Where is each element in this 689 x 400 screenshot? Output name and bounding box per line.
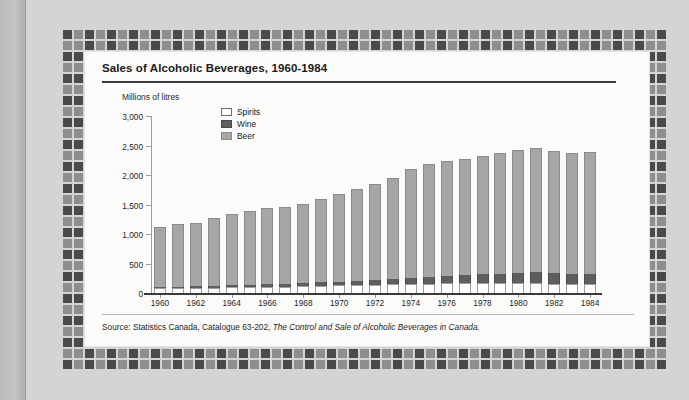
bar-segment-beer [512, 150, 524, 273]
x-tick-label: 1960 [143, 298, 177, 308]
title-underline [102, 81, 616, 83]
bar-1968 [297, 204, 309, 293]
bar-1977 [459, 159, 471, 293]
bar-1978 [477, 156, 489, 293]
bar-segment-spirits [512, 283, 524, 293]
bar-segment-wine [441, 276, 453, 284]
x-tick-label: 1970 [322, 298, 356, 308]
bar-segment-wine [512, 273, 524, 283]
x-tick-label: 1980 [501, 298, 535, 308]
bar-segment-spirits [584, 284, 596, 293]
y-tick-label: 3,000 [101, 112, 143, 122]
bar-segment-beer [297, 204, 309, 283]
y-tick-label: 2,000 [101, 171, 143, 181]
bar-segment-beer [477, 156, 489, 275]
y-axis-title: Millions of litres [122, 92, 179, 102]
page-title: Sales of Alcoholic Beverages, 1960-1984 [102, 62, 327, 74]
bar-1960 [154, 227, 166, 293]
bar-1962 [190, 223, 202, 294]
x-tick-label: 1984 [573, 298, 607, 308]
bar-1979 [494, 153, 506, 293]
page-edge-shadow [0, 0, 25, 400]
bar-1967 [279, 207, 291, 293]
figure-panel: Sales of Alcoholic Beverages, 1960-1984 … [85, 52, 649, 346]
bar-segment-beer [244, 211, 256, 285]
x-tick-label: 1968 [286, 298, 320, 308]
bar-segment-spirits [351, 285, 363, 293]
y-tick-label: 2,500 [101, 141, 143, 151]
bar-segment-spirits [387, 284, 399, 293]
bar-1969 [315, 199, 327, 293]
bar-segment-beer [530, 148, 542, 272]
bar-1983 [566, 153, 578, 293]
bar-segment-wine [584, 274, 596, 284]
bar-segment-beer [494, 153, 506, 274]
bar-segment-beer [279, 207, 291, 284]
bar-1972 [369, 184, 381, 293]
bar-segment-spirits [405, 284, 417, 293]
bar-segment-spirits [369, 285, 381, 293]
x-tick-label: 1978 [466, 298, 500, 308]
bar-segment-spirits [315, 286, 327, 293]
source-publication-title: The Control and Sale of Alcoholic Bevera… [273, 322, 480, 332]
source-note: Source: Statistics Canada, Catalogue 63-… [102, 322, 480, 332]
bar-segment-spirits [566, 284, 578, 293]
bar-segment-wine [477, 274, 489, 283]
bar-1974 [405, 169, 417, 293]
legend-label-spirits: Spirits [237, 107, 260, 117]
x-tick-label: 1982 [537, 298, 571, 308]
source-prefix: Source: Statistics Canada, Catalogue 63-… [102, 322, 273, 332]
y-tick-label: 500 [101, 259, 143, 269]
bar-segment-spirits [441, 283, 453, 293]
bar-segment-wine [494, 274, 506, 284]
bar-1961 [172, 224, 184, 293]
bar-segment-spirits [477, 283, 489, 293]
bar-segment-beer [584, 152, 596, 274]
bar-segment-spirits [297, 286, 309, 293]
bar-1966 [261, 208, 273, 293]
bar-segment-beer [351, 189, 363, 281]
y-tick-label: 1,000 [101, 230, 143, 240]
x-tick-label: 1966 [250, 298, 284, 308]
bar-segment-spirits [333, 285, 345, 293]
bar-segment-spirits [530, 283, 542, 293]
source-separator [102, 314, 634, 315]
x-tick-label: 1962 [179, 298, 213, 308]
bar-segment-spirits [548, 284, 560, 293]
bar-1984 [584, 152, 596, 293]
legend-swatch-spirits [221, 108, 232, 116]
bar-1975 [423, 164, 435, 293]
bar-segment-beer [405, 169, 417, 277]
y-tick-label: 0 [101, 289, 143, 299]
x-tick-label: 1972 [358, 298, 392, 308]
bar-1976 [441, 161, 453, 293]
bar-segment-beer [548, 151, 560, 273]
y-tick-label: 1,500 [101, 200, 143, 210]
bar-segment-beer [190, 223, 202, 287]
bar-segment-beer [566, 153, 578, 274]
scanned-page: Sales of Alcoholic Beverages, 1960-1984 … [26, 0, 689, 400]
bar-segment-beer [208, 218, 220, 286]
bar-segment-wine [566, 274, 578, 284]
bar-1980 [512, 150, 524, 293]
bar-segment-beer [369, 184, 381, 280]
bar-segment-beer [154, 227, 166, 287]
x-tick-label: 1974 [394, 298, 428, 308]
x-axis-line [144, 293, 602, 295]
bar-segment-beer [387, 178, 399, 279]
bar-segment-beer [459, 159, 471, 275]
bar-segment-beer [261, 208, 273, 285]
bar-segment-beer [441, 161, 453, 275]
bar-1971 [351, 189, 363, 293]
bar-1982 [548, 151, 560, 293]
x-tick-label: 1976 [430, 298, 464, 308]
plot-area [151, 116, 599, 293]
bar-segment-spirits [459, 283, 471, 293]
x-tick-label: 1964 [215, 298, 249, 308]
bar-1970 [333, 194, 345, 293]
bar-1981 [530, 148, 542, 293]
bar-1963 [208, 218, 220, 293]
bar-segment-beer [423, 164, 435, 276]
bar-1973 [387, 178, 399, 293]
bar-segment-beer [226, 214, 238, 286]
